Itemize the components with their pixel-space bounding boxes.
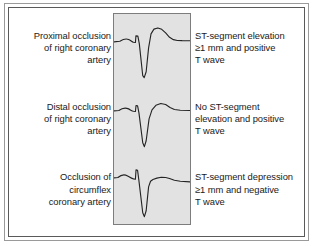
figure-outer-border: Proximal occlusion of right coronary art… [4, 3, 309, 241]
finding-proximal-rca: ST-segment elevation ≥1 mm and positive … [195, 30, 302, 67]
finding-distal-rca: No ST-segment elevation and positive T w… [195, 101, 302, 138]
label-circumflex: Occlusion of circumflex coronary artery [13, 171, 111, 208]
figure-inner-border: Proximal occlusion of right coronary art… [8, 7, 305, 237]
label-distal-rca: Distal occlusion of right coronary arter… [13, 101, 111, 138]
row-distal-rca: Distal occlusion of right coronary arter… [9, 84, 304, 155]
finding-circumflex: ST-segment depression ≥1 mm and negative… [195, 171, 302, 208]
label-proximal-rca: Proximal occlusion of right coronary art… [13, 30, 111, 67]
row-circumflex: Occlusion of circumflex coronary artery … [9, 154, 304, 225]
row-proximal-rca: Proximal occlusion of right coronary art… [9, 13, 304, 84]
figure-body: Proximal occlusion of right coronary art… [9, 8, 304, 236]
